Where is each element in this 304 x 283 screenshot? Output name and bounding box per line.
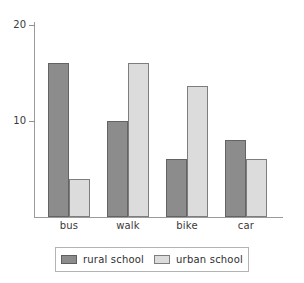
bar-car-rural[interactable]	[225, 140, 246, 217]
bar-bike-urban[interactable]	[187, 86, 208, 217]
legend-label-urban: urban school	[176, 254, 243, 265]
bar-chart: 20 10 bus walk bike car rural school urb…	[0, 0, 304, 283]
bar-walk-urban[interactable]	[128, 63, 149, 217]
bar-walk-rural[interactable]	[107, 121, 128, 217]
x-label-walk: walk	[98, 220, 158, 231]
legend-swatch-rural-icon	[61, 255, 77, 264]
bar-bus-rural[interactable]	[48, 63, 69, 217]
legend-label-rural: rural school	[83, 254, 144, 265]
bar-car-urban[interactable]	[246, 159, 267, 217]
chart-legend: rural school urban school	[55, 247, 249, 272]
bar-bike-rural[interactable]	[166, 159, 187, 217]
bars-layer	[0, 0, 304, 283]
x-label-bike: bike	[157, 220, 217, 231]
legend-item-urban-school[interactable]: urban school	[154, 254, 243, 265]
legend-item-rural-school[interactable]: rural school	[61, 254, 144, 265]
bar-bus-urban[interactable]	[69, 179, 90, 217]
x-label-car: car	[216, 220, 276, 231]
legend-swatch-urban-icon	[154, 255, 170, 264]
x-label-bus: bus	[39, 220, 99, 231]
